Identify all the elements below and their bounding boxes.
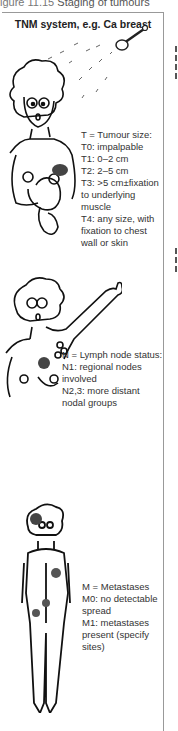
desc-line: present (specify [82,629,158,641]
desc-line: M = Metastases [82,581,158,593]
desc-line: T2: 2–5 cm [81,165,159,177]
desc-line: M1: metastases [82,617,158,629]
desc-line: to underlying [81,189,159,201]
desc-line: sites) [82,641,158,653]
figure-caption: igure 11.15 Staging of tumours [0,0,178,8]
adjacent-column-fragment [175,248,178,275]
desc-line: involved [62,373,162,385]
node-description: N = Lymph node status: N1: regional node… [62,349,162,409]
desc-line: fixation to chest [81,225,159,237]
desc-line: spread [82,605,158,617]
desc-line: N1: regional nodes [62,361,162,373]
tnm-panel: TNM system, e.g. Ca breast [2,12,164,731]
tumour-description: T = Tumour size: T0: impalpable T1: 0–2 … [81,129,159,249]
desc-line: T0: impalpable [81,141,159,153]
desc-line: T = Tumour size: [81,129,159,141]
metastases-description: M = Metastases M0: no detectable spread … [82,581,158,653]
desc-line: N2,3: more distant [62,385,162,397]
desc-line: T4: any size, with [81,213,159,225]
woman-self-examining-breast-icon [2,57,82,257]
desc-line: muscle [81,201,159,213]
desc-line: M0: no detectable [82,593,158,605]
body-metastases-icon [20,503,80,713]
desc-line: N = Lymph node status: [62,349,162,361]
adjacent-column-fragment [175,46,178,82]
desc-line: T3: >5 cm±fixation [81,177,159,189]
desc-line: wall or skin [81,237,159,249]
desc-line: nodal groups [62,397,162,409]
figure-number: igure 11.15 [0,0,57,8]
figure-title: Staging of tumours [57,0,149,8]
desc-line: T1: 0–2 cm [81,153,159,165]
